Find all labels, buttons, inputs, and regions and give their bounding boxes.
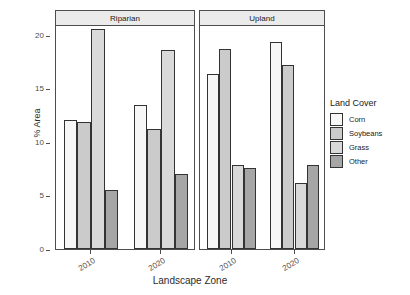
y-tick-label: 10	[22, 139, 44, 147]
bar	[64, 120, 78, 249]
y-tick-mark	[46, 250, 50, 251]
bar	[270, 42, 282, 249]
bar	[219, 49, 231, 249]
bar	[77, 122, 91, 250]
bar	[307, 165, 319, 249]
x-tick-mark	[231, 250, 232, 254]
legend-label: Corn	[349, 115, 365, 124]
y-tick-mark	[46, 143, 50, 144]
bar	[244, 168, 256, 249]
legend-label: Soybeans	[349, 129, 382, 138]
legend-label: Other	[349, 157, 368, 166]
y-tick-label: 15	[22, 85, 44, 93]
facet-panel-upland: Upland	[199, 10, 325, 250]
legend-item-grass: Grass	[330, 140, 408, 154]
legend-item-soybeans: Soybeans	[330, 126, 408, 140]
bars-upland	[200, 26, 324, 249]
facet-strip-upland: Upland	[200, 11, 324, 26]
legend: Land Cover CornSoybeansGrassOther	[330, 98, 408, 168]
bar	[161, 50, 175, 249]
legend-swatch	[330, 113, 343, 126]
legend-items: CornSoybeansGrassOther	[330, 112, 408, 168]
bar	[207, 74, 219, 249]
bar	[147, 129, 161, 249]
x-tick-mark	[294, 250, 295, 254]
bar	[91, 29, 105, 249]
bar	[232, 165, 244, 249]
legend-swatch	[330, 141, 343, 154]
legend-label: Grass	[349, 143, 369, 152]
y-tick-label: 20	[22, 32, 44, 40]
x-tick-mark	[160, 250, 161, 254]
bar	[175, 174, 189, 249]
legend-title: Land Cover	[330, 98, 408, 108]
legend-swatch	[330, 155, 343, 168]
facet-panel-riparian: Riparian	[55, 10, 195, 250]
y-tick-label: 0	[22, 246, 44, 254]
y-tick-mark	[46, 36, 50, 37]
legend-item-other: Other	[330, 154, 408, 168]
bar	[282, 65, 294, 249]
y-tick-label: 5	[22, 192, 44, 200]
bar-chart: % Area 05101520 Riparian Upland 20102020…	[0, 0, 410, 295]
x-axis-title: Landscape Zone	[55, 275, 325, 286]
bar	[295, 183, 307, 249]
y-axis-title: % Area	[32, 88, 42, 158]
y-tick-mark	[46, 89, 50, 90]
y-tick-mark	[46, 196, 50, 197]
legend-item-corn: Corn	[330, 112, 408, 126]
facet-strip-riparian: Riparian	[56, 11, 194, 26]
bars-riparian	[56, 26, 194, 249]
x-tick-mark	[90, 250, 91, 254]
bar	[134, 105, 148, 249]
bar	[105, 190, 119, 249]
legend-swatch	[330, 127, 343, 140]
